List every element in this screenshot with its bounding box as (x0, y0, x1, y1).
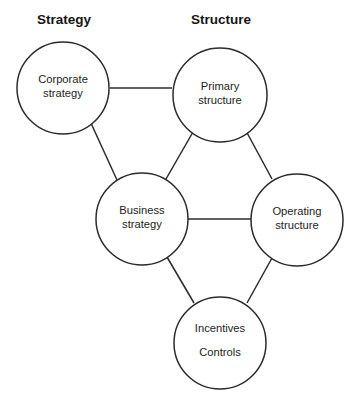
node-label-primary-structure-line-2: structure (198, 94, 242, 106)
connector-business-to-incentives (167, 257, 194, 303)
node-primary-structure: Primarystructure (173, 48, 267, 142)
connector-primary-to-business (166, 132, 193, 179)
connector-corporate-to-business (90, 121, 117, 180)
node-circle-incentives-controls (174, 297, 266, 389)
connector-primary-to-operating (245, 129, 272, 179)
node-circles-group: CorporatestrategyPrimarystructureBusines… (17, 42, 343, 389)
diagram-canvas: CorporatestrategyPrimarystructureBusines… (0, 0, 358, 406)
node-corporate-strategy: Corporatestrategy (17, 42, 109, 134)
node-label-incentives-controls-line-2: Controls (199, 346, 241, 358)
node-incentives-controls: IncentivesControls (174, 297, 266, 389)
node-label-business-strategy-line-1: Business (119, 204, 165, 216)
column-heading-strategy: Strategy (37, 12, 92, 27)
node-label-business-strategy-line-2: strategy (122, 218, 162, 230)
node-label-incentives-controls-line-1: Incentives (195, 322, 246, 334)
node-business-strategy: Businessstrategy (96, 173, 188, 265)
node-label-corporate-strategy-line-2: strategy (43, 87, 83, 99)
node-label-operating-structure-line-2: structure (275, 219, 319, 231)
connector-operating-to-incentives (247, 258, 272, 303)
column-heading-structure: Structure (191, 12, 252, 27)
strategy-structure-diagram: CorporatestrategyPrimarystructureBusines… (0, 0, 358, 406)
column-headings-group: StrategyStructure (37, 12, 252, 27)
node-label-primary-structure-line-1: Primary (201, 80, 240, 92)
node-label-operating-structure-line-1: Operating (272, 205, 321, 217)
node-operating-structure: Operatingstructure (251, 174, 343, 266)
node-label-corporate-strategy-line-1: Corporate (38, 73, 88, 85)
